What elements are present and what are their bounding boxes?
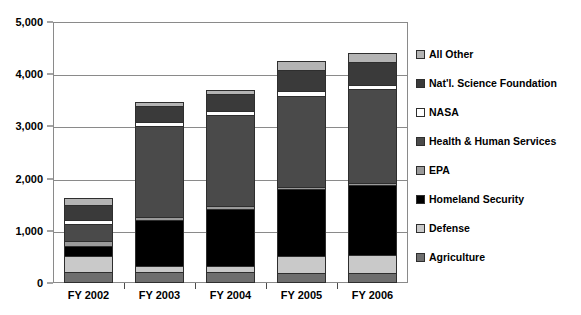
bar-segment-health-human-services[interactable] [65,225,112,242]
bar-segment-all-other[interactable] [349,54,396,63]
legend-item-defense[interactable]: Defense [416,214,581,243]
stacked-bar[interactable] [206,90,255,283]
stacked-bar[interactable] [277,61,326,283]
bar-segment-health-human-services[interactable] [207,116,254,207]
legend-item-all-other[interactable]: All Other [416,40,581,69]
bar-group-fy-2002[interactable] [53,22,124,283]
stacked-bar[interactable] [64,198,113,283]
x-tick-mark [266,283,267,289]
x-tick-label-fy-2006: FY 2006 [337,289,408,311]
x-tick-label-fy-2002: FY 2002 [53,289,124,311]
legend-swatch-agriculture [416,253,425,262]
bar-segment-nat-l-science-foundation[interactable] [136,107,183,123]
bar-segment-agriculture[interactable] [278,274,325,282]
legend-item-homeland-security[interactable]: Homeland Security [416,185,581,214]
x-tick-mark [337,283,338,289]
bar-segment-all-other[interactable] [278,62,325,70]
bar-group-fy-2003[interactable] [124,22,195,283]
bar-segment-health-human-services[interactable] [278,97,325,188]
bar-segment-homeland-security[interactable] [65,247,112,257]
bar-group-fy-2006[interactable] [337,22,408,283]
legend-item-agriculture[interactable]: Agriculture [416,243,581,272]
bar-segment-homeland-security[interactable] [207,210,254,267]
stacked-bar[interactable] [135,102,184,283]
legend-label-agriculture: Agriculture [429,252,485,263]
legend-swatch-hhs [416,137,425,146]
legend-swatch-nasa [416,108,425,117]
y-tick-label: 2,000 [15,173,43,185]
bar-segment-agriculture[interactable] [65,273,112,282]
bar-segment-nat-l-science-foundation[interactable] [349,63,396,85]
legend-label-health-human-services: Health & Human Services [429,136,556,147]
bar-segment-defense[interactable] [65,257,112,273]
legend-item-nasa[interactable]: NASA [416,98,581,127]
legend-swatch-homeland [416,195,425,204]
stacked-bar-chart: 01,0002,0003,0004,0005,000 FY 2002FY 200… [0,0,581,315]
legend-item-nat-l-science-foundation[interactable]: Nat'l. Science Foundation [416,69,581,98]
bar-segment-defense[interactable] [349,256,396,274]
bar-segment-health-human-services[interactable] [349,90,396,183]
x-tick-mark [124,283,125,289]
bar-segment-health-human-services[interactable] [136,127,183,218]
legend-label-homeland-security: Homeland Security [429,194,524,205]
x-tick-label-fy-2003: FY 2003 [124,289,195,311]
bar-segment-nat-l-science-foundation[interactable] [65,206,112,222]
x-axis: FY 2002FY 2003FY 2004FY 2005FY 2006 [53,289,408,311]
legend-swatch-defense [416,224,425,233]
legend-label-nat-l-science-foundation: Nat'l. Science Foundation [429,78,557,89]
bars-layer [53,22,408,283]
legend-item-epa[interactable]: EPA [416,156,581,185]
y-tick-label: 1,000 [15,225,43,237]
legend-label-defense: Defense [429,223,470,234]
legend-label-all-other: All Other [429,49,473,60]
chart-legend: All OtherNat'l. Science FoundationNASAHe… [416,40,581,272]
legend-swatch-all-other [416,50,425,59]
legend-swatch-nsf [416,79,425,88]
y-tick-label: 0 [37,277,43,289]
bar-segment-homeland-security[interactable] [278,190,325,257]
x-tick-mark [195,283,196,289]
bar-group-fy-2004[interactable] [195,22,266,283]
y-tick-label: 4,000 [15,68,43,80]
bar-group-fy-2005[interactable] [266,22,337,283]
legend-label-nasa: NASA [429,107,459,118]
bar-segment-agriculture[interactable] [349,274,396,282]
bar-segment-nat-l-science-foundation[interactable] [207,95,254,112]
legend-item-health-human-services[interactable]: Health & Human Services [416,127,581,156]
x-tick-label-fy-2004: FY 2004 [195,289,266,311]
bar-segment-defense[interactable] [207,267,254,274]
y-axis: 01,0002,0003,0004,0005,000 [0,0,53,315]
x-tick-label-fy-2005: FY 2005 [266,289,337,311]
bar-segment-all-other[interactable] [65,199,112,206]
bar-segment-defense[interactable] [278,257,325,273]
legend-swatch-epa [416,166,425,175]
y-tick-label: 5,000 [15,16,43,28]
legend-label-epa: EPA [429,165,450,176]
bar-segment-agriculture[interactable] [207,273,254,282]
bar-segment-nat-l-science-foundation[interactable] [278,71,325,92]
bar-segment-homeland-security[interactable] [136,221,183,267]
stacked-bar[interactable] [348,53,397,283]
bar-segment-agriculture[interactable] [136,273,183,282]
bar-segment-homeland-security[interactable] [349,186,396,255]
y-tick-label: 3,000 [15,120,43,132]
